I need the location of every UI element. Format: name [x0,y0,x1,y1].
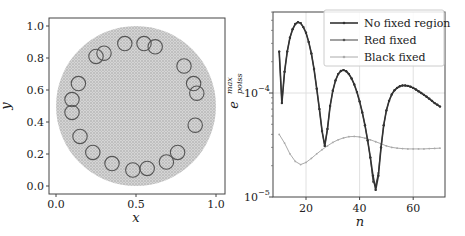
series-marker [286,50,288,52]
series-marker [297,21,299,23]
right-panel-line-chart: 10−410−5 204060 n e max poiss No fixed r… [225,10,450,229]
series-marker [305,32,307,34]
series-marker [364,137,366,139]
series-marker [436,104,438,106]
series-marker [407,85,409,87]
x-tick-label: 0.0 [47,198,65,211]
series-marker [415,88,417,90]
svg-text:max: max [225,77,234,94]
series-marker [433,102,435,104]
series-marker [332,90,334,92]
series-marker [361,111,363,113]
legend: No fixed regionRed fixedBlack fixed [324,10,450,66]
series-marker [310,158,312,160]
series-marker [345,70,347,72]
svg-text:poiss: poiss [235,73,244,94]
series-marker [348,73,350,75]
series-marker [294,160,296,162]
y-tick-label: 0.2 [27,148,45,161]
series-marker [417,90,419,92]
series-marker [356,91,358,93]
series-marker [428,148,430,150]
series-marker [299,22,301,24]
series-marker [431,100,433,102]
y-tick-label: 0.0 [27,180,45,193]
series-marker [326,128,328,130]
y-tick-exponent: −4 [258,84,270,93]
series-marker [366,139,368,141]
svg-text:e: e [226,101,241,109]
series-marker [407,148,409,150]
series-marker [302,26,304,28]
series-marker [425,96,427,98]
series-marker [364,124,366,126]
series-marker [420,92,422,94]
series-marker [324,145,326,147]
series-marker [369,139,371,141]
series-marker [369,156,371,158]
legend-label: No fixed region [364,17,450,30]
series-marker [337,139,339,141]
series-marker [329,105,331,107]
series-marker [386,145,388,147]
y-tick-label: 0.6 [27,84,45,97]
series-marker [278,133,280,135]
legend-label: Red fixed [364,34,416,47]
series-marker [393,89,395,91]
series-marker [391,146,393,148]
series-marker [409,85,411,87]
series-marker [289,37,291,39]
left-x-label: x [132,210,140,225]
left-y-ticks: 0.00.20.40.60.81.0 [27,20,50,193]
series-marker [402,148,404,150]
series-marker [359,136,361,138]
figure: 0.00.20.40.60.81.0 0.00.51.0 x y 10−410−… [0,0,465,236]
series-marker [291,28,293,30]
series-marker [278,50,280,52]
x-tick-label: 60 [406,202,420,215]
series-marker [283,71,285,73]
series-marker [289,153,291,155]
x-tick-label: 20 [299,202,313,215]
series-marker [316,87,318,89]
y-tick-label: 1.0 [27,20,45,33]
series-marker [423,148,425,150]
y-tick-exponent: −5 [258,188,270,197]
series-marker [418,148,420,150]
series-marker [399,85,401,87]
series-marker [294,23,296,25]
series-marker [396,147,398,149]
series-marker [404,84,406,86]
series-marker [375,141,377,143]
series-marker [318,108,320,110]
disk [56,26,216,186]
series-marker [439,147,441,149]
series-marker [350,77,352,79]
series-marker [305,162,307,164]
series-marker [332,141,334,143]
series-marker [300,164,302,166]
series-marker [434,148,436,150]
disk-point-cloud [56,26,216,186]
left-y-label: y [0,102,13,111]
y-tick-label: 10 [244,87,258,100]
series-marker [321,130,323,132]
y-tick-label: 0.4 [27,116,45,129]
series-marker [343,137,345,139]
series-marker [316,153,318,155]
series-marker [337,73,339,75]
series-marker [353,83,355,85]
series-marker [423,94,425,96]
series-marker [388,100,390,102]
series-marker [380,146,382,148]
right-x-label: n [356,214,364,229]
legend-label: Black fixed [364,51,426,64]
series-marker [439,105,441,107]
series-marker [334,79,336,81]
series-marker [428,98,430,100]
y-tick-label: 0.8 [27,52,45,65]
series-marker [281,102,283,104]
series-marker [284,142,286,144]
left-panel-scatter: 0.00.20.40.60.81.0 0.00.51.0 x y [0,18,225,225]
right-y-label: e max poiss [225,73,244,109]
